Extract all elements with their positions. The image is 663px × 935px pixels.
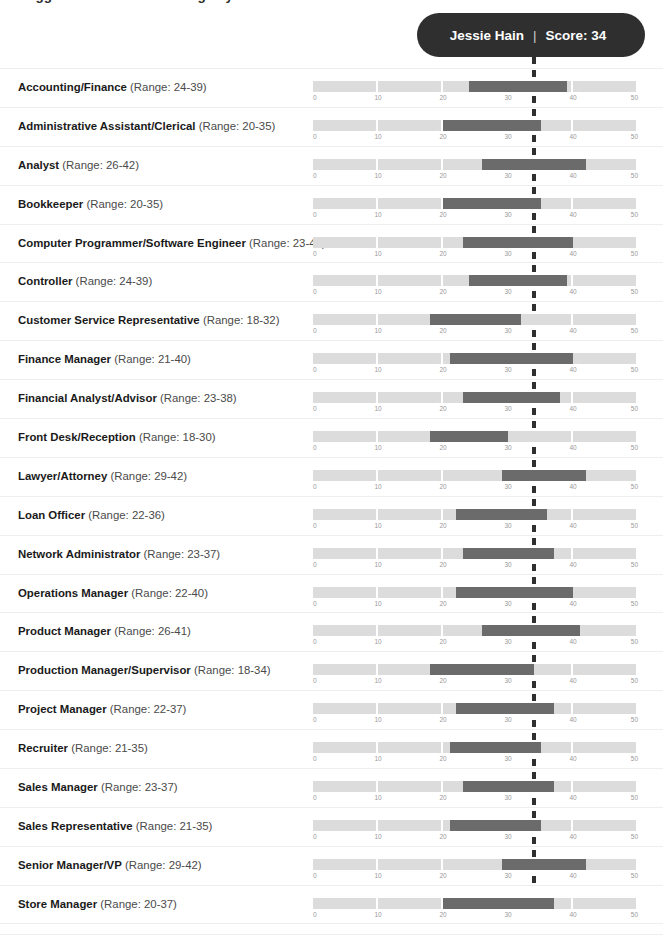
position-range-text: (Range: 18-30) [139,431,216,443]
position-row[interactable]: Production Manager/Supervisor (Range: 18… [0,651,663,690]
position-label: Administrative Assistant/Clerical (Range… [18,120,275,132]
position-row[interactable]: Senior Manager/VP (Range: 29-42)01020304… [0,846,663,885]
axis-tick-label: 20 [439,249,446,258]
position-label: Finance Manager (Range: 21-40) [18,353,191,365]
track-segment [573,742,636,753]
position-range-text: (Range: 23-37) [144,548,221,560]
axis-tick-label: 50 [631,132,638,141]
position-name: Lawyer/Attorney [18,470,107,482]
axis-tick-label: 50 [631,793,638,802]
position-row[interactable]: Customer Service Representative (Range: … [0,301,663,340]
position-name: Loan Officer [18,509,85,521]
position-row[interactable]: Loan Officer (Range: 22-36)01020304050 [0,496,663,535]
axis-tick-label: 0 [313,754,317,763]
score-range-track [313,859,638,870]
position-row[interactable]: Operations Manager (Range: 22-40)0102030… [0,574,663,613]
position-name: Production Manager/Supervisor [18,664,191,676]
suggested-range-fill [443,120,541,131]
axis-tick-label: 30 [504,443,511,452]
axis-tick-label: 10 [374,560,381,569]
position-row[interactable]: Finance Manager (Range: 21-40)0102030405… [0,340,663,379]
position-label: Financial Analyst/Advisor (Range: 23-38) [18,392,237,404]
axis-tick-label: 10 [374,482,381,491]
axis-tick-label: 30 [504,832,511,841]
axis-tick-label: 50 [631,637,638,646]
axis-tick-label: 20 [439,715,446,724]
position-range-text: (Range: 23-38) [160,392,237,404]
position-row[interactable]: Lawyer/Attorney (Range: 29-42)0102030405… [0,457,663,496]
score-range-track [313,898,638,909]
position-row[interactable]: Financial Analyst/Advisor (Range: 23-38)… [0,379,663,418]
axis-tick-label: 0 [313,599,317,608]
score-range-track [313,314,638,325]
score-axis: 01020304050 [313,482,638,493]
position-rows-list: Accounting/Finance (Range: 24-39)0102030… [0,68,663,924]
axis-tick-label: 10 [374,910,381,919]
position-row[interactable]: Project Manager (Range: 22-37)0102030405… [0,690,663,729]
position-range-text: (Range: 22-40) [131,587,208,599]
track-segment [378,198,441,209]
position-range-text: (Range: 22-36) [88,509,165,521]
track-segment [573,587,636,598]
axis-tick-label: 0 [313,637,317,646]
position-row[interactable]: Front Desk/Reception (Range: 18-30)01020… [0,418,663,457]
axis-tick-label: 50 [631,715,638,724]
track-segment [378,703,441,714]
position-row[interactable]: Network Administrator (Range: 23-37)0102… [0,535,663,574]
suggested-range-fill [456,587,573,598]
axis-tick-label: 20 [439,365,446,374]
axis-tick-label: 50 [631,249,638,258]
score-range-track [313,275,638,286]
position-name: Project Manager [18,703,107,715]
track-segment [313,742,376,753]
score-axis: 01020304050 [313,676,638,687]
score-range-track [313,664,638,675]
axis-tick-label: 30 [504,560,511,569]
position-range-text: (Range: 26-41) [114,625,191,637]
axis-tick-label: 50 [631,93,638,102]
position-name: Senior Manager/VP [18,859,122,871]
track-segment [313,703,376,714]
axis-tick-label: 50 [631,832,638,841]
axis-tick-label: 20 [439,521,446,530]
position-row[interactable]: Product Manager (Range: 26-41)0102030405… [0,612,663,651]
axis-tick-label: 50 [631,599,638,608]
axis-tick-label: 0 [313,365,317,374]
score-axis: 01020304050 [313,132,638,143]
position-row[interactable]: Store Manager (Range: 20-37)01020304050 [0,885,663,924]
axis-tick-label: 10 [374,832,381,841]
axis-tick-label: 20 [439,132,446,141]
suggested-range-fill [430,664,534,675]
suggested-range-fill [450,820,541,831]
position-row[interactable]: Controller (Range: 24-39)01020304050 [0,262,663,301]
axis-tick-label: 20 [439,910,446,919]
position-row[interactable]: Recruiter (Range: 21-35)01020304050 [0,729,663,768]
position-label: Accounting/Finance (Range: 24-39) [18,81,207,93]
suggested-range-fill [430,431,508,442]
suggested-range-fill [456,509,547,520]
axis-tick-label: 0 [313,93,317,102]
score-range-track [313,392,638,403]
position-row[interactable]: Computer Programmer/Software Engineer (R… [0,224,663,263]
axis-tick-label: 10 [374,754,381,763]
track-segment [573,703,636,714]
position-row[interactable]: Bookkeeper (Range: 20-35)01020304050 [0,185,663,224]
score-axis: 01020304050 [313,871,638,882]
score-axis: 01020304050 [313,832,638,843]
position-row[interactable]: Sales Representative (Range: 21-35)01020… [0,807,663,846]
track-segment [313,470,376,481]
axis-tick-label: 30 [504,365,511,374]
suggested-range-fill [463,392,561,403]
position-row[interactable]: Sales Manager (Range: 23-37)01020304050 [0,768,663,807]
position-name: Operations Manager [18,587,128,599]
axis-tick-label: 20 [439,287,446,296]
axis-tick-label: 40 [569,910,576,919]
axis-tick-label: 40 [569,521,576,530]
axis-tick-label: 0 [313,210,317,219]
axis-tick-label: 0 [313,171,317,180]
position-row[interactable]: Administrative Assistant/Clerical (Range… [0,107,663,146]
axis-tick-label: 40 [569,560,576,569]
position-row[interactable]: Accounting/Finance (Range: 24-39)0102030… [0,68,663,107]
score-range-track [313,548,638,559]
position-row[interactable]: Analyst (Range: 26-42)01020304050 [0,146,663,185]
